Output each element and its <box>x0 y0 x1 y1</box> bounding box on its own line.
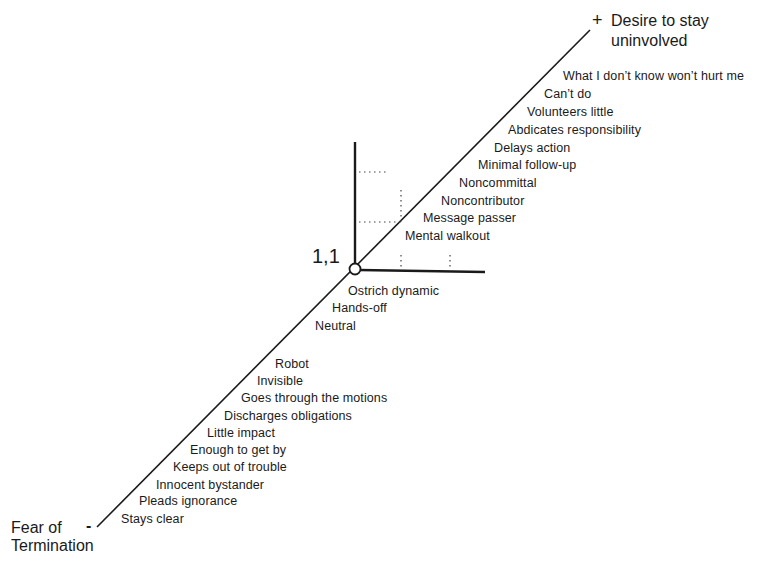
lower-item: Stays clear <box>121 512 184 526</box>
top-pole-label-line1: Desire to stay <box>611 12 709 30</box>
bottom-pole-sign: - <box>86 517 91 535</box>
bottom-pole-label-line2: Termination <box>11 537 94 555</box>
lower-item: Enough to get by <box>190 443 286 457</box>
horizontal-axis <box>359 270 485 272</box>
lower-item: Discharges obligations <box>224 409 352 423</box>
middle-item: Hands-off <box>332 301 387 315</box>
upper-item: Noncontributor <box>441 194 524 208</box>
upper-item: What I don’t know won’t hurt me <box>563 69 744 83</box>
top-pole-label-line2: uninvolved <box>611 32 688 50</box>
upper-item: Message passer <box>423 211 516 225</box>
lower-item: Keeps out of trouble <box>173 460 287 474</box>
lower-item: Little impact <box>207 426 275 440</box>
middle-item: Ostrich dynamic <box>348 284 439 298</box>
upper-item: Noncommittal <box>459 176 537 190</box>
upper-item: Volunteers little <box>527 105 613 119</box>
upper-item: Abdicates responsibility <box>508 123 641 137</box>
lower-item: Innocent bystander <box>156 478 264 492</box>
origin-label: 1,1 <box>312 245 340 267</box>
diagonal-axis <box>97 30 590 527</box>
upper-item: Delays action <box>494 141 570 155</box>
upper-item: Mental walkout <box>405 229 490 243</box>
upper-item: Minimal follow-up <box>478 158 576 172</box>
lower-item: Invisible <box>257 374 303 388</box>
lower-item: Goes through the motions <box>241 391 387 405</box>
bottom-pole-label-line1: Fear of <box>11 519 62 537</box>
lower-item: Pleads ignorance <box>139 494 237 508</box>
top-pole-sign: + <box>592 11 603 29</box>
lower-item: Robot <box>275 357 309 371</box>
middle-item: Neutral <box>315 319 356 333</box>
upper-item: Can’t do <box>544 87 591 101</box>
origin-point <box>350 264 361 275</box>
